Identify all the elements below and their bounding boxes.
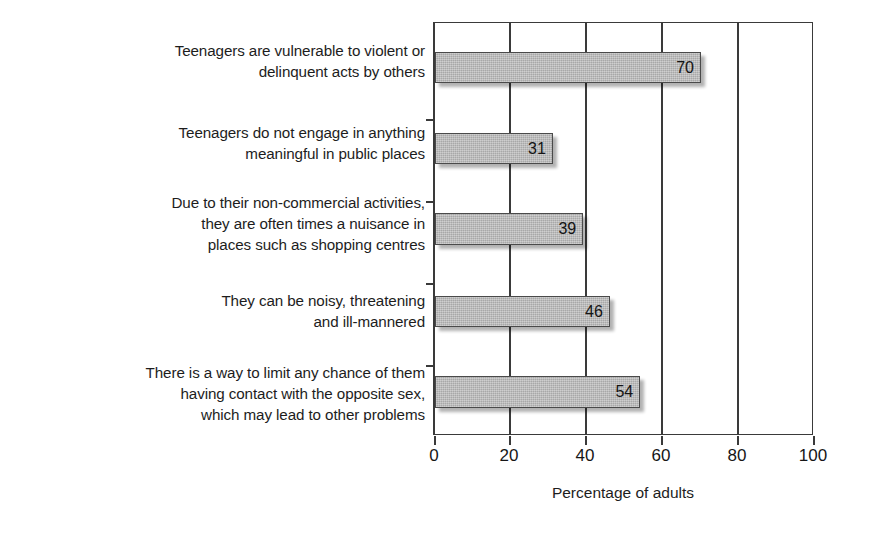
x-axis-tick-label-60: 60 xyxy=(652,446,671,466)
gridline-80 xyxy=(737,23,739,434)
x-axis-tick-60 xyxy=(661,436,663,445)
bar-2: 39 xyxy=(435,213,583,245)
bar-1: 31 xyxy=(435,133,553,164)
bar-rect-4: 54 xyxy=(435,376,640,408)
x-axis-tick-label-20: 20 xyxy=(500,446,519,466)
bar-value-label-2: 39 xyxy=(558,221,576,237)
category-label-1: Teenagers do not engage in anything mean… xyxy=(0,122,425,164)
gridline-40 xyxy=(585,23,587,434)
category-label-2: Due to their non-commercial activities, … xyxy=(0,192,425,255)
bar-rect-3: 46 xyxy=(435,296,610,327)
x-axis-tick-label-0: 0 xyxy=(429,446,438,466)
x-axis-tick-80 xyxy=(737,436,739,445)
category-labels-column: Teenagers are vulnerable to violent or d… xyxy=(0,22,425,435)
bar-0: 70 xyxy=(435,52,701,83)
x-axis-tick-40 xyxy=(585,436,587,445)
x-axis-title: Percentage of adults xyxy=(433,483,813,503)
bar-rect-1: 31 xyxy=(435,133,553,164)
bar-value-label-4: 54 xyxy=(615,384,633,400)
x-axis-tick-label-40: 40 xyxy=(576,446,595,466)
bar-chart-figure: Teenagers are vulnerable to violent or d… xyxy=(0,0,879,534)
category-label-4: There is a way to limit any chance of th… xyxy=(0,362,425,425)
bar-3: 46 xyxy=(435,296,610,327)
x-axis-tick-100 xyxy=(813,436,815,445)
bar-rect-0: 70 xyxy=(435,52,701,83)
bar-value-label-3: 46 xyxy=(585,304,603,320)
bar-value-label-0: 70 xyxy=(676,60,694,76)
gridline-60 xyxy=(661,23,663,434)
x-axis-tick-20 xyxy=(509,436,511,445)
y-axis-tick-1 xyxy=(426,201,435,203)
category-label-0: Teenagers are vulnerable to violent or d… xyxy=(0,40,425,82)
bar-4: 54 xyxy=(435,376,640,408)
x-axis-tick-label-80: 80 xyxy=(728,446,747,466)
y-axis-tick-3 xyxy=(426,365,435,367)
x-axis-tick-label-100: 100 xyxy=(799,446,827,466)
plot-area: 70 31 39 46 54 xyxy=(433,22,813,435)
category-label-3: They can be noisy, threatening and ill-m… xyxy=(0,290,425,332)
y-axis-tick-0 xyxy=(426,119,435,121)
bar-rect-2: 39 xyxy=(435,213,583,245)
y-axis-tick-2 xyxy=(426,283,435,285)
bar-value-label-1: 31 xyxy=(528,141,546,157)
x-axis-tick-0 xyxy=(434,436,436,445)
